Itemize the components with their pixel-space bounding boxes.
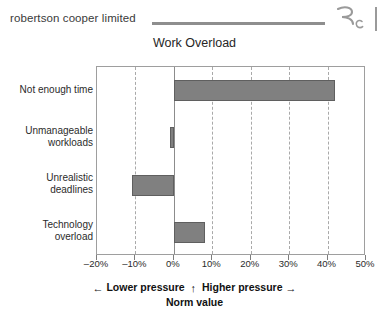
category-label: Not enough time (7, 84, 93, 96)
tick-label: –10% (114, 258, 154, 269)
bar (170, 127, 174, 148)
category-label: Unmanageableworkloads (7, 125, 93, 149)
tick-label: 40% (307, 258, 347, 269)
arrow-right-icon: → (285, 282, 296, 294)
tick-label: 20% (230, 258, 270, 269)
category-label: Technologyoverload (7, 219, 93, 243)
higher-pressure-label: Higher pressure (202, 281, 283, 293)
x-axis-label: Norm value (0, 296, 389, 308)
category-label: Unrealisticdeadlines (7, 172, 93, 196)
pressure-direction-annotation: ← Lower pressure ↑ Higher pressure → (0, 281, 389, 294)
bar (174, 222, 205, 243)
chart-figure: –20%–10%0%10%20%30%40%50% Not enough tim… (0, 0, 389, 314)
arrow-left-icon: ← (93, 282, 104, 294)
lower-pressure-label: Lower pressure (106, 281, 184, 293)
bar (174, 80, 335, 101)
plot-area (96, 66, 365, 255)
bar (132, 175, 174, 196)
arrow-up-icon: ↑ (188, 282, 200, 294)
tick-label: 0% (153, 258, 193, 269)
tick-label: 30% (268, 258, 308, 269)
gridline (135, 67, 136, 254)
tick-label: 10% (191, 258, 231, 269)
tick-label: 50% (345, 258, 385, 269)
tick-label: –20% (76, 258, 116, 269)
